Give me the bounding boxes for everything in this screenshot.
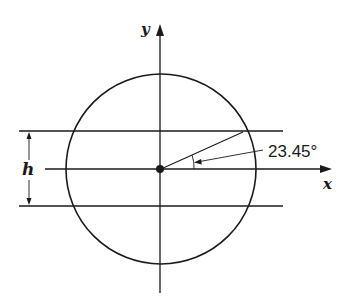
angle-leader-arrow-icon — [194, 159, 202, 165]
center-point — [156, 165, 164, 173]
x-axis-arrow-icon — [320, 165, 332, 173]
x-axis-label: x — [322, 175, 333, 193]
angle-leader-line — [197, 150, 263, 162]
radius-line — [161, 132, 243, 169]
h-arrow-down-icon — [27, 198, 32, 205]
angle-arc — [192, 155, 194, 169]
angle-label: 23.45° — [268, 142, 317, 161]
h-arrow-up-icon — [27, 132, 32, 139]
diagram-canvas: y x h 23.45° — [0, 0, 350, 304]
height-label: h — [22, 159, 34, 179]
y-axis-label: y — [140, 20, 151, 38]
y-axis-arrow-icon — [156, 24, 164, 36]
